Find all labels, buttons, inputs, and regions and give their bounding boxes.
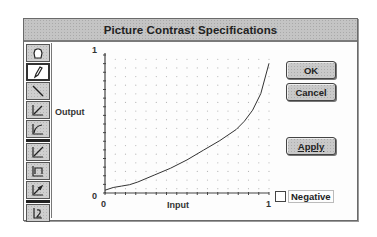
toolbar-divider [26, 200, 50, 203]
y-max-tick: 1 [92, 45, 97, 55]
negative-checkbox-label: Negative [288, 190, 334, 203]
picture-contrast-dialog: Picture Contrast Specifications [23, 18, 358, 221]
gamma-icon [30, 183, 46, 197]
pencil-tool-button[interactable] [26, 63, 50, 81]
curve-up-tool-button[interactable] [26, 101, 50, 119]
x-min-tick: 0 [101, 199, 106, 209]
reset-icon [30, 206, 46, 220]
curve-toolbar [25, 43, 52, 218]
hand-icon [30, 46, 46, 60]
hand-tool-button[interactable] [26, 44, 50, 62]
cancel-button[interactable]: Cancel [286, 83, 336, 101]
gamma-tool-button[interactable] [26, 181, 50, 199]
apply-label: Apply [298, 141, 324, 152]
title-bar[interactable]: Picture Contrast Specifications [24, 19, 357, 42]
threshold-tool-button[interactable] [26, 162, 50, 180]
curve-down-tool-button[interactable] [26, 120, 50, 138]
dialog-title: Picture Contrast Specifications [104, 24, 278, 36]
reset-tool-button[interactable] [26, 204, 50, 222]
curve-down-icon [30, 122, 46, 136]
negative-checkbox-box[interactable] [275, 191, 286, 202]
line-tool-button[interactable] [26, 82, 50, 100]
apply-button[interactable]: Apply [286, 137, 336, 155]
threshold-icon [30, 164, 46, 178]
pencil-icon [30, 65, 46, 79]
linear-tool-button[interactable] [26, 143, 50, 161]
line-icon [30, 84, 46, 98]
y-axis-label: Output [55, 107, 85, 117]
x-max-tick: 1 [266, 199, 271, 209]
curve-plot[interactable] [101, 51, 271, 197]
y-min-tick: 0 [92, 191, 97, 201]
x-axis-label: Input [167, 200, 189, 210]
contrast-curve-graph[interactable] [101, 51, 271, 197]
ok-button[interactable]: OK [286, 61, 336, 79]
toolbar-divider [26, 139, 50, 142]
curve-up-icon [30, 103, 46, 117]
linear-icon [30, 145, 46, 159]
negative-checkbox[interactable]: Negative [275, 190, 334, 203]
